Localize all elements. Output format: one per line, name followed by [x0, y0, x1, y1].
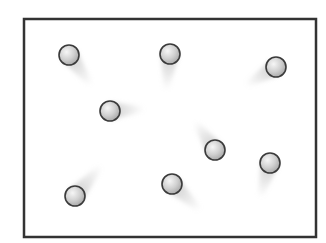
- particle-ball: [266, 57, 286, 77]
- particle-ball: [205, 140, 225, 160]
- particle-ball: [65, 186, 85, 206]
- particle-ball: [100, 101, 120, 121]
- particle-ball: [59, 45, 79, 65]
- particle-ball: [260, 153, 280, 173]
- particle-ball: [162, 174, 182, 194]
- particle-ball: [160, 44, 180, 64]
- particle-diagram: [0, 0, 326, 243]
